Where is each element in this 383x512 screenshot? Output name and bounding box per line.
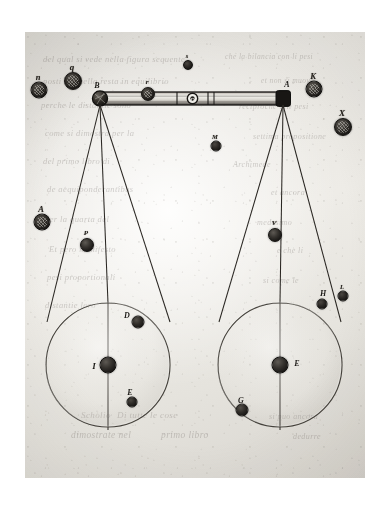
left-cord-centre (100, 105, 108, 303)
beam-group (92, 91, 290, 107)
fulcrum-pin (190, 96, 194, 100)
right-pan-weight-g[interactable] (236, 404, 249, 417)
right-cords (219, 105, 341, 322)
weight-x[interactable] (334, 118, 352, 136)
left-cords (47, 105, 170, 322)
left-pan-centre-weight[interactable] (100, 357, 117, 374)
weight-m[interactable] (211, 141, 222, 152)
right-cord-centre (280, 105, 283, 303)
weight-q[interactable] (64, 72, 82, 90)
left-pan-weight-d[interactable] (132, 316, 145, 329)
right-cord-outer-right (283, 105, 341, 322)
right-pan-weight-h[interactable] (317, 299, 328, 310)
left-pan-weight-e[interactable] (127, 397, 138, 408)
engraved-plate: del qual si vede nella figura sequentech… (25, 32, 365, 478)
right-cord-outer-left (219, 105, 283, 322)
left-cord-outer-right (100, 105, 170, 322)
weight-s[interactable] (183, 60, 193, 70)
weight-a[interactable] (34, 214, 51, 231)
balance-diagram (25, 32, 365, 478)
weight-l[interactable] (338, 291, 349, 302)
weight-r[interactable] (141, 87, 155, 101)
weight-k[interactable] (306, 81, 323, 98)
beam-right-pivot (276, 91, 291, 107)
right-pan-centre-weight[interactable] (272, 357, 289, 374)
figure-page: del qual si vede nella figura sequentech… (0, 0, 383, 512)
left-cord-outer-left (47, 105, 100, 322)
weight-n[interactable] (31, 82, 48, 99)
weight-p[interactable] (80, 238, 94, 252)
weight-v[interactable] (268, 228, 282, 242)
